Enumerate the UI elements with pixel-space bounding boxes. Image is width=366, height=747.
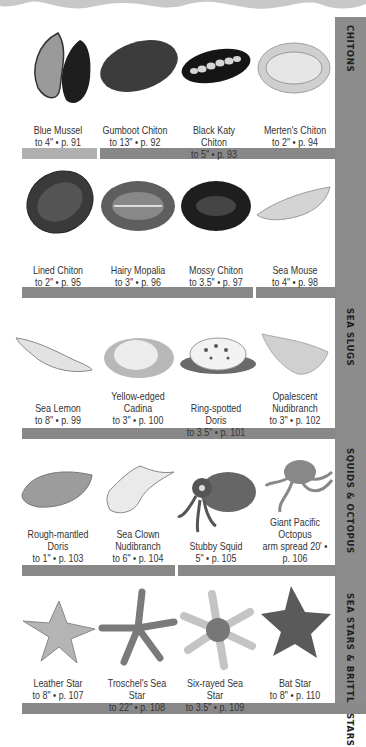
tab-sea-slugs[interactable]: SEA SLUGS: [335, 300, 366, 440]
species-label: Troschel's Sea Starto 22" • p. 108: [102, 677, 172, 713]
nudibranch-illustration: [100, 460, 176, 520]
species-label: Black Katy Chitonto 5" • p. 93: [179, 124, 249, 160]
chiton-illustration: [98, 38, 180, 94]
species-label: Stubby Squid5" • p. 105: [181, 540, 251, 564]
nudibranch-illustration: [18, 465, 96, 513]
chiton-illustration: [22, 166, 98, 238]
species-label: Yellow-edged Cadinato 3" • p. 100: [103, 390, 173, 426]
group-bar: [22, 148, 97, 159]
wave-border: [0, 0, 366, 14]
group-bar: [178, 565, 336, 576]
tab-label: SEA SLUGS: [345, 308, 356, 366]
mussel-illustration: [28, 28, 96, 108]
tab-sea-stars-brittle-stars[interactable]: SEA STARS & BRITTLE STARS: [335, 585, 366, 705]
tab-chitons[interactable]: CHITONS: [335, 17, 366, 157]
species-label: Mossy Chitonto 3.5" • p. 97: [181, 264, 251, 288]
species-label: Blue Musselto 4" • p. 91: [23, 124, 93, 148]
species-label: Lined Chitonto 2" • p. 95: [23, 264, 93, 288]
species-label: Merten's Chitonto 2" • p. 94: [260, 124, 330, 148]
chiton-illustration: [256, 40, 332, 96]
species-label: Opalescent Nudibranchto 3" • p. 102: [260, 390, 330, 426]
chiton-illustration: [180, 180, 252, 232]
group-bar: [22, 565, 175, 576]
species-label: Sea Clown Nudibranchto 6" • p. 104: [103, 528, 173, 564]
species-label: Leather Starto 8" • p. 107: [23, 677, 93, 701]
chiton-illustration: [100, 180, 176, 232]
species-label: Hairy Mopaliato 3" • p. 96: [103, 264, 173, 288]
sea-star-illustration: [98, 588, 178, 668]
tab-squids-octopus[interactable]: SQUIDS & OCTOPUS: [335, 440, 366, 580]
sea-star-illustration: [20, 596, 98, 666]
group-bar: [22, 287, 253, 298]
sea-star-illustration: [178, 590, 258, 670]
chiton-illustration: [180, 45, 252, 87]
octopus-illustration: [258, 452, 334, 520]
tab-label: SEA STARS & BRITTLE STARS: [345, 593, 356, 747]
nudibranch-illustration: [258, 330, 332, 378]
species-label: Rough-mantled Doristo 1" • p. 103: [23, 528, 93, 564]
species-label: Giant Pacific Octopusarm spread 20' • p.…: [260, 516, 330, 564]
group-bar: [22, 428, 336, 439]
species-label: Gumboot Chitonto 13" • p. 92: [100, 124, 170, 148]
group-bar: [256, 287, 336, 298]
nudibranch-illustration: [102, 330, 176, 380]
species-label: Sea Mouseto 4" • p. 98: [260, 264, 330, 288]
species-label: Ring-spotted Doristo 3.5" • p. 101: [181, 402, 251, 438]
species-label: Six-rayed Sea Starto 3.5" • p. 109: [180, 677, 250, 713]
squid-illustration: [176, 466, 258, 534]
species-label: Bat Starto 8" • p. 110: [260, 677, 330, 701]
nudibranch-illustration: [14, 330, 94, 376]
species-label: Sea Lemonto 8" • p. 99: [23, 402, 93, 426]
tab-label: CHITONS: [345, 25, 356, 72]
tab-label: SQUIDS & OCTOPUS: [345, 448, 356, 554]
sea-mouse-illustration: [255, 185, 333, 225]
nudibranch-illustration: [178, 332, 258, 376]
sea-star-illustration: [258, 584, 332, 660]
